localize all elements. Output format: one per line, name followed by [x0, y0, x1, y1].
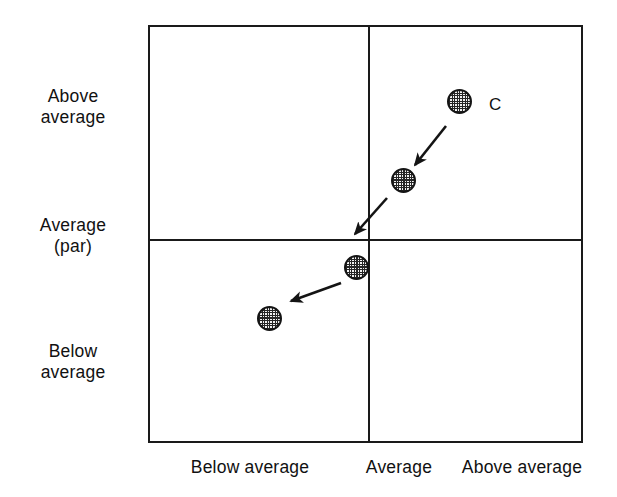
data-point-marker — [257, 306, 282, 331]
y-axis-label-above-average: Above average — [8, 86, 138, 128]
x-axis-label-below-average: Below average — [145, 457, 355, 478]
y-axis-label-below-average: Below average — [8, 341, 138, 383]
x-axis-label-average: Average — [349, 457, 449, 478]
quadrant-divider-horizontal — [148, 239, 583, 241]
series-label-c: C — [489, 95, 501, 114]
plot-frame — [148, 25, 583, 443]
quadrant-scatter-figure: Above average Average (par) Below averag… — [0, 0, 617, 497]
y-axis-label-average-par: Average (par) — [8, 215, 138, 257]
quadrant-divider-vertical — [368, 25, 370, 443]
x-axis-label-above-average: Above average — [437, 457, 607, 478]
data-point-marker — [344, 255, 369, 280]
data-point-marker — [391, 168, 416, 193]
data-point-marker — [447, 89, 472, 114]
